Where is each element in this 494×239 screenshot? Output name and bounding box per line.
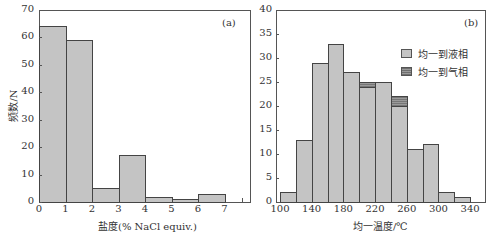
histogram-bar-liquid	[328, 44, 345, 203]
histogram-bar-liquid	[391, 106, 408, 203]
histogram-bar-liquid	[296, 140, 313, 203]
y-tick-label: 15	[252, 123, 272, 134]
y-tick-mark	[276, 106, 279, 107]
histogram-bar-liquid	[312, 63, 329, 203]
y-tick-label: 25	[252, 75, 272, 86]
histogram-bar-vapor	[359, 82, 376, 88]
legend-item-liquid: 均一到液相	[401, 46, 468, 61]
legend-swatch-liquid	[401, 49, 412, 58]
y-tick-mark	[276, 130, 279, 131]
panel-tag: (b)	[464, 17, 478, 28]
x-tick-label: 100	[268, 203, 292, 214]
y-tick-mark	[276, 154, 279, 155]
x-tick-label: 260	[395, 203, 419, 214]
x-tick-label: 300	[426, 203, 450, 214]
y-tick-mark	[276, 10, 279, 11]
y-tick-mark	[276, 82, 279, 83]
histogram-bar-liquid	[375, 82, 392, 203]
histogram-bar-liquid	[438, 192, 455, 203]
x-tick-label: 220	[363, 203, 387, 214]
x-tick-label: 140	[300, 203, 324, 214]
y-tick-label: 40	[252, 3, 272, 14]
histogram-bar-liquid	[407, 149, 424, 203]
y-tick-label: 30	[252, 51, 272, 62]
y-tick-mark	[276, 34, 279, 35]
y-tick-label: 35	[252, 27, 272, 38]
histogram-bar-vapor	[391, 96, 408, 107]
y-tick-label: 5	[252, 171, 272, 182]
histogram-bar-liquid	[359, 87, 376, 203]
x-tick-label: 180	[331, 203, 355, 214]
x-tick-label: 340	[458, 203, 482, 214]
legend-label: 均一到气相	[418, 64, 468, 79]
x-axis-label: 均一温度/℃	[353, 218, 408, 233]
y-tick-mark	[276, 178, 279, 179]
legend-label: 均一到液相	[418, 46, 468, 61]
y-tick-label: 20	[252, 99, 272, 110]
legend-swatch-vapor	[401, 67, 412, 76]
histogram-bar-liquid	[280, 192, 297, 203]
histogram-bar-liquid	[343, 72, 360, 203]
legend-item-vapor: 均一到气相	[401, 64, 468, 79]
y-tick-mark	[276, 58, 279, 59]
histogram-bar-liquid	[423, 144, 440, 203]
y-tick-label: 10	[252, 147, 272, 158]
homogenization-temperature-histogram: (b) 均一到液相 均一到气相 均一温度/℃ 05101520253035401…	[0, 0, 494, 239]
